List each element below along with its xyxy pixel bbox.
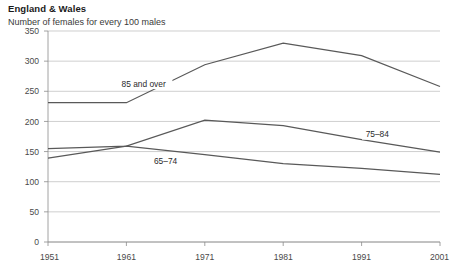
y-axis-tickmarks [44, 31, 48, 242]
series-labels-group: 85 and over75–8465–74 [115, 77, 393, 167]
x-axis-tick-label: 1971 [195, 252, 214, 262]
y-axis-tick-label: 50 [29, 207, 39, 217]
x-axis-tick-label: 1991 [352, 252, 371, 262]
y-axis-tick-label: 350 [25, 26, 40, 36]
x-axis-tick-label: 1981 [274, 252, 293, 262]
y-axis-tick-label: 150 [25, 147, 40, 157]
series-label: 85 and over [122, 79, 166, 89]
series-label: 65–74 [154, 156, 178, 166]
y-axis-tick-label: 100 [25, 177, 40, 187]
y-axis-tick-label: 0 [34, 237, 39, 247]
x-axis-tickmarks [48, 242, 440, 246]
chart-figure: England & Wales Number of females for ev… [0, 0, 453, 274]
x-axis-tick-label: 1961 [117, 252, 136, 262]
y-axis-tick-labels: 050100150200250300350 [25, 26, 40, 247]
data-series-line [48, 43, 440, 103]
y-axis-tick-label: 300 [25, 56, 40, 66]
x-axis-tick-label: 1951 [40, 252, 59, 262]
y-axis-tick-label: 200 [25, 117, 40, 127]
data-series-group [48, 43, 440, 174]
y-axis-tick-label: 250 [25, 86, 40, 96]
x-axis-tick-label: 2001 [430, 252, 449, 262]
series-label: 75–84 [366, 129, 390, 139]
plot-area: 050100150200250300350 195119611971198119… [0, 0, 453, 274]
line-chart-svg: 050100150200250300350 195119611971198119… [0, 0, 453, 274]
data-series-line [48, 146, 440, 174]
x-axis-tick-labels: 195119611971198119912001 [40, 252, 449, 262]
